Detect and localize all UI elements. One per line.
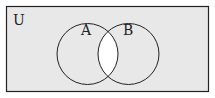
set-a-label: A bbox=[80, 22, 92, 38]
venn-diagram: U A B bbox=[0, 0, 215, 98]
universe-label: U bbox=[13, 12, 25, 28]
set-b-label: B bbox=[123, 22, 133, 38]
